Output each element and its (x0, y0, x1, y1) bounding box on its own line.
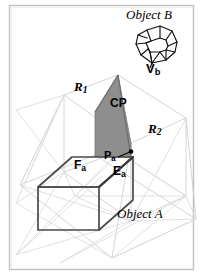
label-ea-base: E (113, 164, 121, 178)
label-r2: R2 (148, 122, 161, 137)
label-r2-base: R (148, 121, 157, 136)
label-object-a: Object A (117, 207, 163, 220)
polyhedron-object-b (136, 26, 177, 63)
label-r1: R1 (74, 80, 87, 95)
label-vb-base: V (146, 61, 155, 76)
label-r1-subscript: 1 (83, 84, 88, 95)
label-cp: CP (110, 97, 127, 109)
label-r1-base: R (74, 79, 83, 94)
label-vb-subscript: b (155, 67, 161, 77)
label-vb: Vb (146, 62, 160, 77)
technical-diagram-svg (0, 0, 203, 277)
label-object-b: Object B (126, 8, 172, 21)
label-fa: Fa (74, 159, 86, 173)
label-pa-subscript: a (111, 154, 115, 163)
label-ea: Ea (113, 165, 126, 179)
label-fa-subscript: a (81, 163, 86, 173)
label-pa: Pa (104, 150, 116, 163)
clipping-plane-cp (95, 75, 131, 157)
figure-canvas: Object B Vb R1 CP R2 Fa Pa Ea Object A (0, 0, 203, 277)
label-ea-subscript: a (121, 169, 126, 179)
label-r2-subscript: 2 (157, 126, 162, 137)
